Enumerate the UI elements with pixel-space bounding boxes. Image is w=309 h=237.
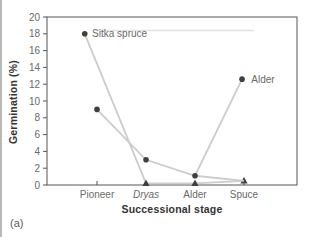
y-tick-label: 2	[34, 163, 40, 174]
data-point-dot	[94, 107, 100, 113]
y-tick-label: 16	[29, 45, 41, 56]
y-tick-label: 14	[29, 62, 41, 73]
y-tick-label: 18	[29, 28, 41, 39]
data-point-dot	[82, 31, 88, 37]
x-tick-label: Dryas	[133, 189, 159, 200]
y-tick-label: 20	[29, 12, 41, 23]
data-point-dot	[192, 173, 198, 179]
x-tick-label: Spuce	[230, 189, 259, 200]
y-tick-label: 10	[29, 96, 41, 107]
x-tick-label: Pioneer	[80, 189, 115, 200]
series-label: Sitka spruce	[92, 28, 147, 39]
panel-label: (a)	[10, 217, 23, 229]
y-tick-label: 4	[34, 146, 40, 157]
label-leader-line	[195, 79, 242, 176]
y-tick-label: 0	[34, 180, 40, 191]
figure-panel: 02468101214161820PioneerDryasAlderSpuceS…	[0, 0, 309, 237]
series-label-dot	[239, 76, 245, 82]
y-tick-label: 6	[34, 129, 40, 140]
y-tick-label: 12	[29, 79, 41, 90]
plot-border	[47, 17, 297, 185]
x-axis-title: Successional stage	[47, 203, 297, 215]
germination-chart: 02468101214161820PioneerDryasAlderSpuceS…	[0, 0, 309, 237]
series-label: Alder	[251, 74, 275, 85]
series-line-sitka-spruce	[85, 34, 244, 184]
x-tick-label: Alder	[183, 189, 207, 200]
y-tick-label: 8	[34, 112, 40, 123]
y-axis-title: Germination (%)	[7, 52, 19, 152]
data-point-dot	[143, 157, 149, 163]
